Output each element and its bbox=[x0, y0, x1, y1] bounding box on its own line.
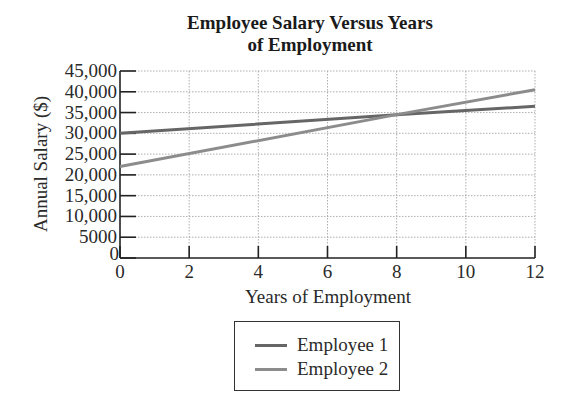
x-tick-label: 6 bbox=[323, 261, 333, 282]
y-axis-title: Annual Salary ($) bbox=[30, 96, 52, 232]
y-tick-label: 30,000 bbox=[65, 122, 117, 143]
x-axis-title: Years of Employment bbox=[245, 286, 412, 307]
y-tick-label: 25,000 bbox=[65, 143, 117, 164]
gridlines bbox=[120, 71, 535, 258]
y-tick-label: 40,000 bbox=[65, 81, 117, 102]
legend-swatch-employee-1 bbox=[255, 344, 287, 347]
y-tick-label: 20,000 bbox=[65, 164, 117, 185]
y-tick-label: 15,000 bbox=[65, 185, 117, 206]
x-axis-ticks: 024681012 bbox=[115, 246, 544, 282]
x-tick-label: 8 bbox=[392, 261, 402, 282]
legend-item-employee-1: Employee 1 bbox=[255, 334, 388, 356]
y-axis-ticks: 0500010,00015,00020,00025,00030,00035,00… bbox=[65, 60, 136, 264]
y-tick-label: 5000 bbox=[79, 226, 117, 247]
legend-label-employee-2: Employee 2 bbox=[297, 358, 388, 380]
y-tick-label: 10,000 bbox=[65, 205, 117, 226]
y-tick-label: 45,000 bbox=[65, 60, 117, 81]
x-tick-label: 0 bbox=[115, 261, 125, 282]
x-tick-label: 2 bbox=[184, 261, 194, 282]
x-tick-label: 12 bbox=[526, 261, 545, 282]
legend-label-employee-1: Employee 1 bbox=[297, 334, 388, 356]
legend: Employee 1 Employee 2 bbox=[234, 321, 400, 391]
x-tick-label: 4 bbox=[254, 261, 264, 282]
y-tick-label: 35,000 bbox=[65, 102, 117, 123]
legend-item-employee-2: Employee 2 bbox=[255, 358, 388, 380]
x-tick-label: 10 bbox=[456, 261, 475, 282]
legend-swatch-employee-2 bbox=[255, 368, 287, 371]
plot-area: 0500010,00015,00020,00025,00030,00035,00… bbox=[0, 0, 571, 320]
